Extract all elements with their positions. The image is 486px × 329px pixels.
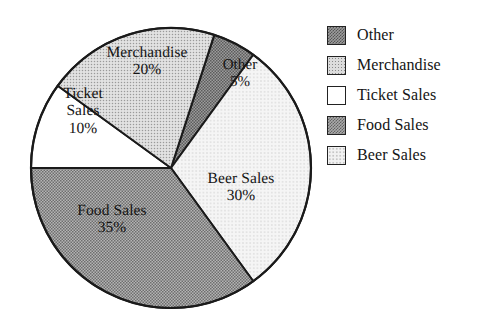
pie-label-ticket-sales-line2: Sales [50, 102, 116, 119]
pie-label-ticket-sales-line1: Ticket [63, 85, 103, 102]
pie-label-ticket-sales-value: 10% [50, 120, 116, 137]
pie-label-food-sales-value: 35% [55, 219, 169, 236]
pie-label-other: Other 5% [207, 57, 273, 91]
pie-label-beer-sales-name: Beer Sales [208, 170, 275, 187]
pie-label-beer-sales-value: 30% [186, 187, 296, 204]
chart-legend: Other Merchandise Ticket Sales Food Sale… [327, 20, 482, 170]
pie-label-food-sales-name: Food Sales [77, 202, 146, 219]
swatch-ticket-sales-icon [327, 86, 346, 105]
legend-item-ticket-sales[interactable]: Ticket Sales [327, 80, 482, 110]
pie-label-merchandise-name: Merchandise [106, 44, 187, 61]
pie-label-merchandise: Merchandise 20% [86, 44, 208, 79]
legend-label-food-sales: Food Sales [357, 116, 429, 134]
pie-chart-figure: Merchandise 20% Other 5% Ticket Sales 10… [0, 0, 486, 329]
pie-label-merchandise-value: 20% [86, 61, 208, 78]
swatch-merchandise-icon [327, 56, 346, 75]
legend-item-beer-sales[interactable]: Beer Sales [327, 140, 482, 170]
swatch-beer-sales-icon [327, 146, 346, 165]
legend-label-beer-sales: Beer Sales [357, 146, 426, 164]
pie-label-other-value: 5% [207, 74, 273, 91]
legend-label-merchandise: Merchandise [357, 56, 441, 74]
swatch-food-sales-icon [327, 116, 346, 135]
legend-label-ticket-sales: Ticket Sales [357, 86, 436, 104]
pie-label-food-sales: Food Sales 35% [55, 202, 169, 237]
pie-label-ticket-sales: Ticket Sales 10% [50, 85, 116, 137]
legend-item-merchandise[interactable]: Merchandise [327, 50, 482, 80]
swatch-other-icon [327, 26, 346, 45]
pie-label-beer-sales: Beer Sales 30% [186, 170, 296, 205]
legend-label-other: Other [357, 26, 394, 44]
legend-item-food-sales[interactable]: Food Sales [327, 110, 482, 140]
pie-label-other-name: Other [223, 57, 258, 73]
legend-item-other[interactable]: Other [327, 20, 482, 50]
